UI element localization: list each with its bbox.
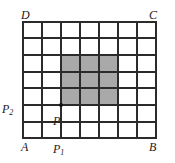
grid-diagram-svg: [0, 0, 175, 163]
point-label-p2-sub: 2: [9, 108, 13, 117]
vertex-label-b: B: [149, 141, 156, 153]
vertex-label-d: D: [21, 9, 30, 21]
vertex-label-c: C: [149, 9, 157, 21]
vertex-label-a: A: [21, 141, 28, 153]
point-label-p1-sub: 1: [60, 148, 64, 157]
point-label-p2: P2: [2, 103, 13, 115]
point-label-p: P: [53, 115, 60, 127]
shaded-region: [61, 55, 118, 105]
point-label-p1: P1: [53, 143, 64, 155]
point-p-marker: [59, 103, 63, 107]
geometry-figure: D C A B P P1 P2: [0, 0, 175, 163]
